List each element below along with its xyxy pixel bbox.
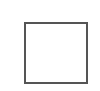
maximize-icon[interactable] [24, 22, 88, 84]
